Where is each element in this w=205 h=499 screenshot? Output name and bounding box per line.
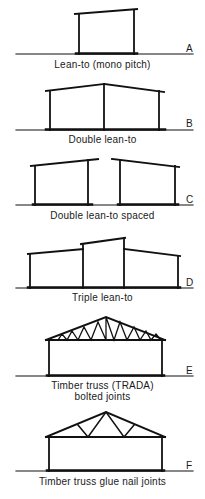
panel-d-drawing xyxy=(16,238,193,288)
panel-d-letter: D xyxy=(186,277,193,288)
panel-a-caption: Lean-to (mono pitch) xyxy=(0,59,205,70)
panel-b-letter: B xyxy=(186,118,193,129)
panel-f-caption: Timber truss glue nail joints xyxy=(0,476,205,487)
panel-f-letter: F xyxy=(186,460,192,471)
panel-a-drawing xyxy=(16,9,193,54)
panel-c-letter: C xyxy=(186,194,193,205)
panel-c-caption: Double lean-to spaced xyxy=(0,210,205,221)
panel-e-caption: Timber truss (TRADA) xyxy=(0,380,205,391)
panel-b-caption: Double lean-to xyxy=(0,134,205,145)
panel-f-drawing xyxy=(16,412,193,471)
panel-b-drawing xyxy=(16,84,193,130)
panel-e-caption-line2: bolted joints xyxy=(0,391,205,402)
panel-e-letter: E xyxy=(186,365,193,376)
panel-d-caption: Triple lean-to xyxy=(0,292,205,303)
building-types-diagram xyxy=(0,0,205,499)
panel-c-drawing xyxy=(16,159,193,205)
panel-a-letter: A xyxy=(186,43,193,54)
panel-e-drawing xyxy=(16,317,193,376)
